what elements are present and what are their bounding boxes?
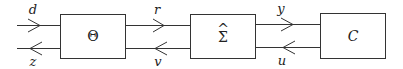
- signal-v-label: v: [154, 54, 162, 69]
- signal-r-label: r: [154, 2, 161, 17]
- signal-y-label: y: [276, 1, 285, 16]
- signal-z-label: z: [29, 54, 37, 69]
- theta-label: Θ: [87, 28, 98, 44]
- signal-d-label: d: [29, 2, 37, 17]
- sigma-hat-label: Σ: [218, 29, 228, 45]
- block-diagram: Θ ^ Σ C d z r v y u: [0, 0, 403, 69]
- signal-u-label: u: [278, 53, 286, 68]
- controller-label: C: [348, 28, 359, 44]
